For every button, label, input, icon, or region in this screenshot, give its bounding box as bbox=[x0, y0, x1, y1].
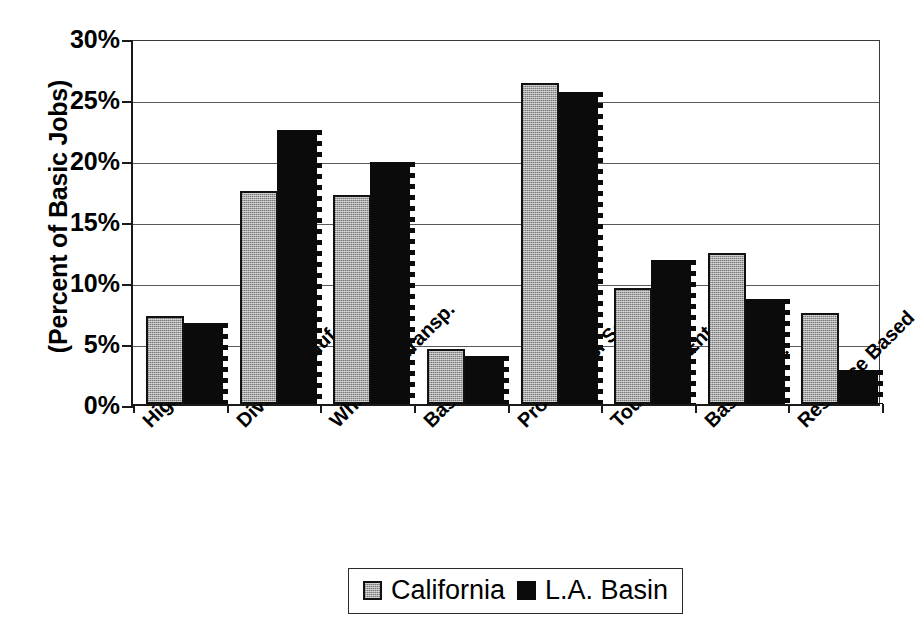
bar-group bbox=[521, 41, 598, 404]
bar-group bbox=[240, 41, 317, 404]
y-tick-mark bbox=[122, 40, 133, 42]
x-tick-mark bbox=[414, 404, 416, 413]
bar-group bbox=[708, 41, 785, 404]
bar-group bbox=[614, 41, 691, 404]
legend-label-california: California bbox=[391, 575, 505, 606]
bar-california bbox=[521, 83, 559, 404]
legend-entry-california: California bbox=[363, 575, 505, 606]
x-tick-mark bbox=[133, 404, 135, 413]
y-tick-label: 15% bbox=[2, 208, 120, 237]
bar-california bbox=[801, 313, 839, 405]
bar-california bbox=[427, 349, 465, 404]
y-tick-label: 20% bbox=[2, 147, 120, 176]
y-tick-label: 25% bbox=[2, 86, 120, 115]
y-tick-label: 5% bbox=[2, 330, 120, 359]
y-tick-mark bbox=[122, 223, 133, 225]
y-tick-mark bbox=[122, 101, 133, 103]
y-tick-label: 30% bbox=[2, 25, 120, 54]
gray-swatch-icon bbox=[363, 581, 382, 600]
cropped-title-remnant bbox=[205, 0, 625, 2]
bar-la-basin bbox=[651, 260, 691, 404]
bar-la-basin bbox=[558, 92, 598, 404]
y-tick-label: 0% bbox=[2, 391, 120, 420]
bar-california bbox=[708, 253, 746, 404]
bar-california bbox=[614, 288, 652, 404]
bar-california bbox=[240, 191, 278, 405]
bar-la-basin bbox=[370, 162, 410, 404]
bar-group bbox=[333, 41, 410, 404]
bar-group bbox=[146, 41, 223, 404]
y-tick-label: 10% bbox=[2, 269, 120, 298]
bar-california bbox=[333, 195, 371, 404]
bar-la-basin bbox=[838, 370, 878, 404]
x-tick-mark bbox=[601, 404, 603, 413]
bar-la-basin bbox=[464, 356, 504, 404]
y-tick-mark bbox=[122, 284, 133, 286]
bar-la-basin bbox=[277, 130, 317, 405]
bar-california bbox=[146, 316, 184, 404]
x-tick-mark bbox=[882, 404, 884, 413]
y-tick-mark bbox=[122, 162, 133, 164]
legend-label-la-basin: L.A. Basin bbox=[545, 575, 668, 606]
bar-la-basin bbox=[183, 323, 223, 404]
x-tick-mark bbox=[788, 404, 790, 413]
plot-area: 30%25%20%15%10%5%0% bbox=[131, 40, 880, 406]
chart-legend: California L.A. Basin bbox=[348, 568, 683, 614]
y-tick-mark bbox=[122, 406, 133, 408]
legend-entry-la-basin: L.A. Basin bbox=[517, 575, 668, 606]
x-tick-mark bbox=[695, 404, 697, 413]
bar-la-basin bbox=[745, 299, 785, 404]
black-swatch-icon bbox=[517, 581, 536, 600]
y-tick-mark bbox=[122, 345, 133, 347]
x-tick-mark bbox=[320, 404, 322, 413]
x-tick-mark bbox=[508, 404, 510, 413]
x-tick-mark bbox=[227, 404, 229, 413]
